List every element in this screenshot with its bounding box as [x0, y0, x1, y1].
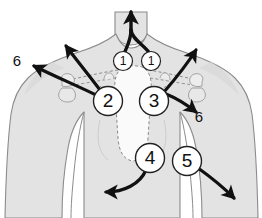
marker-4-label: 4 [145, 147, 156, 168]
marker-1-right-label: 1 [148, 54, 155, 68]
label-6-right: 6 [195, 108, 203, 125]
right-humeral-head [189, 88, 206, 102]
marker-2[interactable]: 2 [94, 87, 123, 116]
marker-3[interactable]: 3 [140, 87, 169, 116]
diagram-canvas: 1 1 2 3 4 5 [0, 0, 262, 218]
marker-1-left[interactable]: 1 [114, 52, 133, 71]
marker-3-label: 3 [149, 90, 160, 111]
label-6-left: 6 [13, 52, 21, 69]
left-humeral-head [59, 88, 76, 102]
right-acromion [190, 74, 203, 87]
marker-1-right[interactable]: 1 [142, 52, 161, 71]
marker-1-left-label: 1 [120, 54, 127, 68]
anatomical-diagram: 1 1 2 3 4 5 [0, 0, 262, 218]
marker-4[interactable]: 4 [136, 144, 165, 173]
marker-2-label: 2 [103, 90, 114, 111]
marker-5[interactable]: 5 [173, 147, 202, 176]
marker-5-label: 5 [182, 150, 193, 171]
